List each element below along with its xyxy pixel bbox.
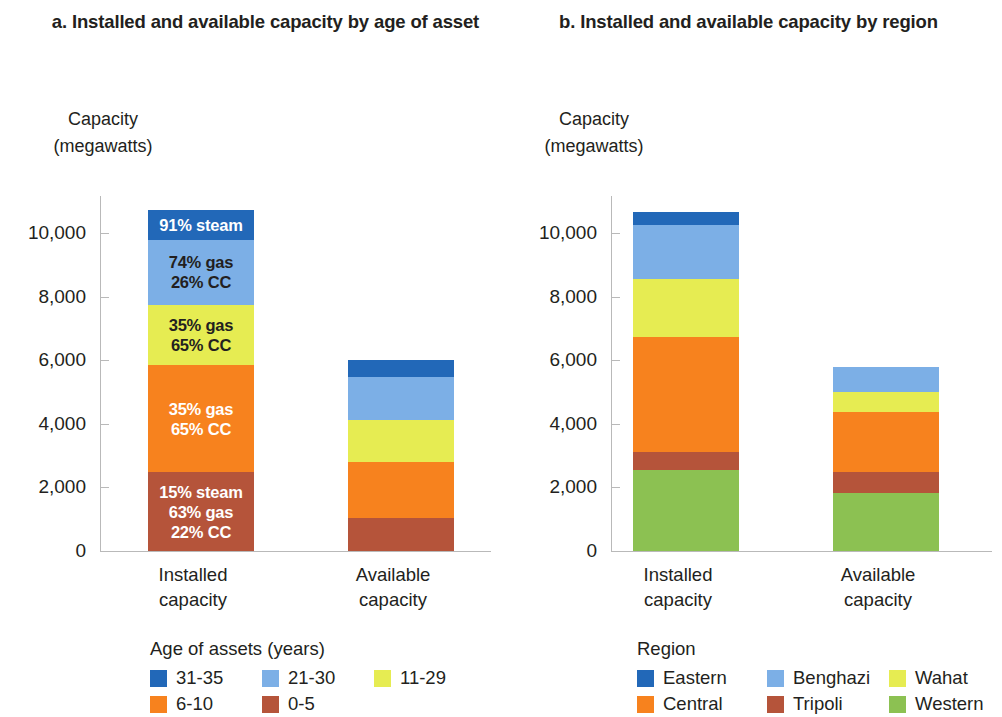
y-axis-tick (100, 487, 109, 488)
legend-swatch-icon (889, 696, 906, 713)
legend-item-label: Central (663, 691, 723, 717)
legend-item-label: Eastern (663, 665, 727, 691)
y-axis-tick (100, 424, 109, 425)
bar-segment-central[interactable] (633, 337, 739, 452)
bar-segment-western[interactable] (633, 470, 739, 551)
legend-item-eastern[interactable]: Eastern (637, 665, 767, 691)
bar-segment-11-29[interactable]: 35% gas 65% CC (148, 305, 254, 365)
y-axis-tick (100, 297, 109, 298)
legend-swatch-icon (767, 696, 784, 713)
legend-swatch-icon (637, 696, 654, 713)
legend-item-21-30[interactable]: 21-30 (262, 665, 374, 691)
y-axis-tick-label: 4,000 (501, 414, 597, 433)
x-axis-category-label: Available capacity (803, 562, 953, 612)
bar-segment-benghazi[interactable] (833, 367, 939, 392)
legend-item-wahat[interactable]: Wahat (889, 665, 1002, 691)
legend-items: EasternBenghaziWahatCentralTripoliWester… (637, 665, 1002, 717)
legend-title: Age of assets (years) (150, 636, 486, 661)
x-axis-category-label: Installed capacity (603, 562, 753, 612)
legend-item-label: 6-10 (176, 691, 213, 717)
panel-a: a. Installed and available capacity by a… (0, 0, 501, 713)
bar-segment-0-5[interactable]: 15% steam 63% gas 22% CC (148, 472, 254, 551)
bar-segment-0-5[interactable] (348, 518, 454, 551)
bar-segment-21-30[interactable]: 74% gas 26% CC (148, 240, 254, 305)
bar-segment-annotation: 35% gas 65% CC (148, 399, 254, 439)
y-axis-tick-label: 2,000 (501, 477, 597, 496)
panel-b-legend: RegionEasternBenghaziWahatCentralTripoli… (637, 636, 1002, 717)
legend-item-tripoli[interactable]: Tripoli (767, 691, 889, 717)
panel-a-legend: Age of assets (years)31-3521-3011-296-10… (150, 636, 486, 717)
legend-swatch-icon (637, 670, 654, 687)
y-axis-tick-label: 4,000 (0, 414, 86, 433)
bar-segment-tripoli[interactable] (633, 452, 739, 470)
legend-item-label: 0-5 (288, 691, 315, 717)
legend-item-label: 11-29 (400, 665, 446, 691)
y-axis-tick-label: 6,000 (501, 350, 597, 369)
y-axis-tick (611, 551, 620, 552)
y-axis-tick-label: 10,000 (0, 223, 86, 242)
legend-item-31-35[interactable]: 31-35 (150, 665, 262, 691)
bar-segment-benghazi[interactable] (633, 225, 739, 279)
legend-item-label: 31-35 (176, 665, 223, 691)
y-axis-tick-label: 10,000 (501, 223, 597, 242)
y-axis-line (100, 196, 101, 552)
y-axis-tick (100, 360, 109, 361)
bar-segment-6-10[interactable]: 35% gas 65% CC (148, 365, 254, 472)
bar-segment-annotation: 74% gas 26% CC (148, 252, 254, 292)
bar-segment-western[interactable] (833, 493, 939, 551)
legend-item-benghazi[interactable]: Benghazi (767, 665, 889, 691)
y-axis-tick (611, 297, 620, 298)
bar-segment-eastern[interactable] (633, 212, 739, 225)
legend-swatch-icon (262, 696, 279, 713)
bar-segment-annotation: 91% steam (148, 215, 254, 235)
y-axis-tick (611, 424, 620, 425)
legend-item-label: Western (915, 691, 984, 717)
bar-available[interactable] (833, 0, 939, 551)
y-axis-tick-label: 0 (0, 541, 86, 560)
legend-item-0-5[interactable]: 0-5 (262, 691, 374, 717)
legend-title: Region (637, 636, 1002, 661)
bar-available[interactable] (348, 0, 454, 551)
panel-b: b. Installed and available capacity by r… (501, 0, 1002, 713)
y-axis-tick (100, 233, 109, 234)
y-axis-tick (611, 360, 620, 361)
legend-item-label: Wahat (915, 665, 968, 691)
x-axis-category-label: Installed capacity (118, 562, 268, 612)
bar-segment-11-29[interactable] (348, 420, 454, 462)
x-axis-category-label: Available capacity (318, 562, 468, 612)
legend-item-central[interactable]: Central (637, 691, 767, 717)
x-axis-line (100, 551, 491, 552)
bar-segment-wahat[interactable] (833, 392, 939, 412)
legend-swatch-icon (889, 670, 906, 687)
legend-item-label: Tripoli (793, 691, 843, 717)
legend-item-label: Benghazi (793, 665, 870, 691)
bar-installed[interactable] (633, 0, 739, 551)
panel-b-plot: 10,0008,0006,0004,0002,0000Installed cap… (501, 0, 1002, 713)
legend-swatch-icon (150, 670, 167, 687)
bar-segment-31-35[interactable] (348, 360, 454, 377)
legend-swatch-icon (150, 696, 167, 713)
legend-item-label: 21-30 (288, 665, 335, 691)
y-axis-tick (100, 551, 109, 552)
bar-installed[interactable]: 15% steam 63% gas 22% CC35% gas 65% CC35… (148, 0, 254, 551)
legend-swatch-icon (374, 670, 391, 687)
bar-segment-annotation: 15% steam 63% gas 22% CC (148, 482, 254, 542)
bar-segment-central[interactable] (833, 412, 939, 472)
panel-a-plot: 10,0008,0006,0004,0002,000015% steam 63%… (0, 0, 501, 713)
y-axis-tick-label: 6,000 (0, 350, 86, 369)
y-axis-line (611, 196, 612, 552)
legend-item-6-10[interactable]: 6-10 (150, 691, 262, 717)
y-axis-tick (611, 487, 620, 488)
bar-segment-6-10[interactable] (348, 462, 454, 518)
bar-segment-annotation: 35% gas 65% CC (148, 315, 254, 355)
legend-items: 31-3521-3011-296-100-5 (150, 665, 486, 717)
bar-segment-21-30[interactable] (348, 377, 454, 420)
bar-segment-31-35[interactable]: 91% steam (148, 210, 254, 240)
y-axis-tick-label: 0 (501, 541, 597, 560)
legend-item-western[interactable]: Western (889, 691, 1002, 717)
legend-swatch-icon (262, 670, 279, 687)
bar-segment-wahat[interactable] (633, 279, 739, 337)
bar-segment-tripoli[interactable] (833, 472, 939, 493)
legend-item-11-29[interactable]: 11-29 (374, 665, 486, 691)
